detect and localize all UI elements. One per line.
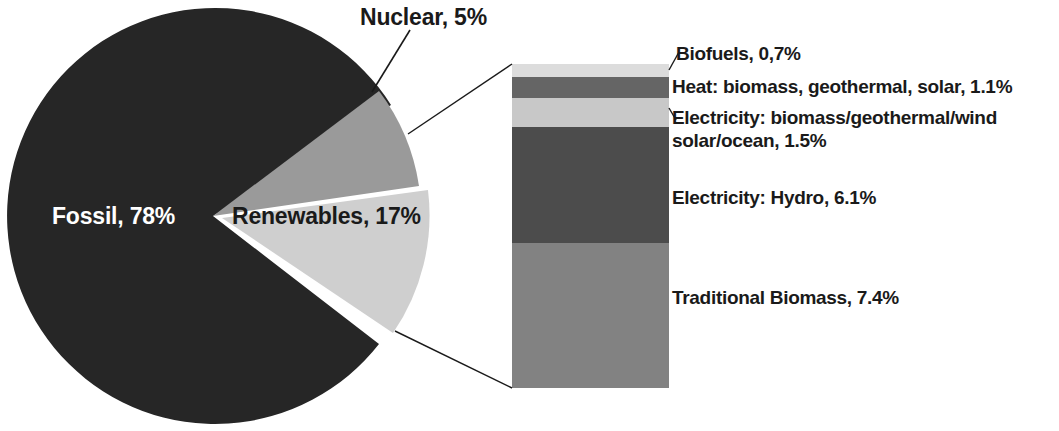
- leader-lines: [0, 0, 1059, 431]
- callout-electricity-other: Electricity: biomass/geothermal/wind sol…: [672, 106, 997, 152]
- explosion-connector-bottom: [395, 331, 512, 388]
- callout-hydro: Electricity: Hydro, 6.1%: [672, 186, 876, 209]
- callout-traditional-biomass: Traditional Biomass, 7.4%: [672, 286, 899, 309]
- leader-line-nuclear: [372, 30, 410, 92]
- callout-biofuels: Biofuels, 0,7%: [676, 42, 801, 65]
- callout-heat: Heat: biomass, geothermal, solar, 1.1%: [672, 75, 1012, 98]
- explosion-connector-top: [408, 64, 512, 134]
- energy-mix-chart: Fossil, 78% Renewables, 17% Nuclear, 5% …: [0, 0, 1059, 431]
